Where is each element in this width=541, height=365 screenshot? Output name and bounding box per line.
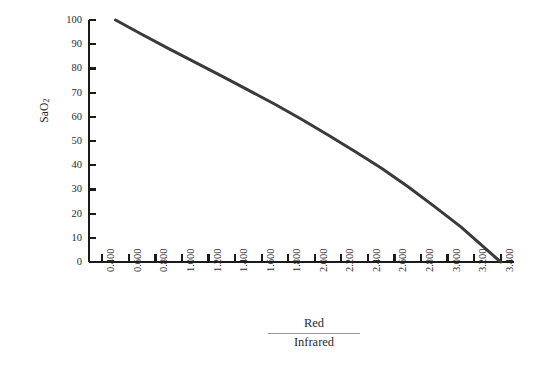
x-tick-label: 0.400 bbox=[106, 232, 117, 272]
x-axis-title-numerator: Red bbox=[268, 316, 360, 333]
x-tick-label: 1.800 bbox=[292, 232, 303, 272]
fraction-bar bbox=[268, 333, 360, 334]
x-tick-label: 1.600 bbox=[266, 232, 277, 272]
chart-page: SaO2 1009080706050403020100 0.4000.6000.… bbox=[0, 0, 541, 365]
x-axis-tick-labels: 0.4000.6000.8001.0001.2001.4001.6001.800… bbox=[0, 0, 541, 365]
x-tick-label: 3.400 bbox=[505, 232, 516, 272]
x-tick-label: 1.400 bbox=[239, 232, 250, 272]
x-tick-label: 2.800 bbox=[425, 232, 436, 272]
x-tick-label: 2.200 bbox=[345, 232, 356, 272]
x-tick-label: 2.400 bbox=[372, 232, 383, 272]
x-tick-label: 3.000 bbox=[452, 232, 463, 272]
x-axis-title: Red Infrared bbox=[268, 316, 360, 350]
x-tick-label: 0.600 bbox=[133, 232, 144, 272]
x-tick-label: 2.600 bbox=[398, 232, 409, 272]
x-tick-label: 1.200 bbox=[213, 232, 224, 272]
x-tick-label: 0.800 bbox=[159, 232, 170, 272]
x-tick-label: 2.000 bbox=[319, 232, 330, 272]
x-axis-title-denominator: Infrared bbox=[268, 335, 360, 351]
x-tick-label: 3.200 bbox=[478, 232, 489, 272]
x-tick-label: 1.000 bbox=[186, 232, 197, 272]
